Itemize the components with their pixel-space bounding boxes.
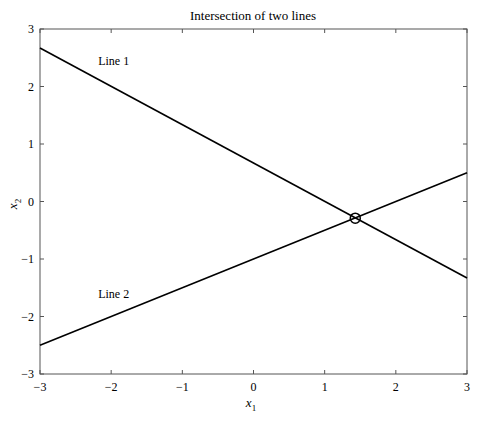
x-tick-label: 0 [251,380,257,394]
chart-title: Intersection of two lines [190,8,316,23]
y-axis-label: x2 [5,199,23,210]
x-tick-label: 3 [464,380,470,394]
data-lines [40,48,467,345]
x-tick-label: −3 [34,380,47,394]
plot-area [40,29,467,374]
y-tick-label: −1 [21,252,34,266]
y-tick-label: −3 [21,367,34,381]
y-tick-label: −2 [21,310,34,324]
series-line-2 [40,173,467,346]
y-tick-label: 0 [28,195,34,209]
series-label-1: Line 1 [98,54,129,68]
y-tick-label: 2 [28,80,34,94]
x-tick-label: 1 [322,380,328,394]
y-tick-label: 3 [28,22,34,36]
y-axis-ticks: −3−2−10123 [21,22,467,381]
x-axis-label: x1 [245,395,256,413]
series-line-1 [40,48,467,278]
series-label-2: Line 2 [98,287,129,301]
x-axis-ticks: −3−2−10123 [34,29,470,394]
y-tick-label: 1 [28,137,34,151]
line-labels: Line 1Line 2 [98,54,129,301]
x-tick-label: 2 [393,380,399,394]
x-tick-label: −2 [105,380,118,394]
line-chart: Intersection of two lines −3−2−10123 −3−… [0,0,482,424]
x-tick-label: −1 [176,380,189,394]
